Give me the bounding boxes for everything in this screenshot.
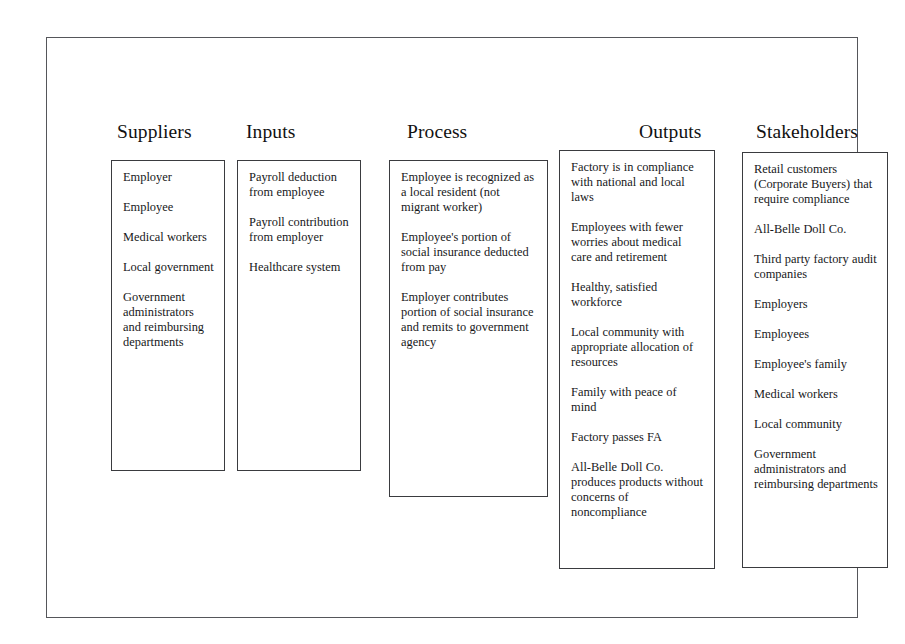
column-list-outputs: Factory is in compliance with national a… [560,151,714,526]
list-item: Employee is recognized as a local reside… [401,170,538,215]
column-box-process: Employee is recognized as a local reside… [389,160,548,497]
column-title-inputs: Inputs [246,122,295,142]
list-item: Employer [123,170,215,185]
list-item: Government administrators and reimbursin… [754,447,878,492]
list-item: Factory is in compliance with national a… [571,160,705,205]
column-list-suppliers: EmployerEmployeeMedical workersLocal gov… [112,161,224,356]
list-item: All-Belle Doll Co. [754,222,878,237]
list-item: Factory passes FA [571,430,705,445]
list-item: Retail customers (Corporate Buyers) that… [754,162,878,207]
list-item: Employers [754,297,878,312]
list-item: Medical workers [123,230,215,245]
list-item: Medical workers [754,387,878,402]
list-item: Government administrators and reimbursin… [123,290,215,350]
column-list-inputs: Payroll deduction from employeePayroll c… [238,161,360,281]
column-box-stakeholders: Retail customers (Corporate Buyers) that… [742,152,888,568]
list-item: Employee's portion of social insurance d… [401,230,538,275]
column-title-process: Process [407,122,467,142]
column-box-inputs: Payroll deduction from employeePayroll c… [237,160,361,471]
list-item: Healthy, satisfied workforce [571,280,705,310]
list-item: Employees [754,327,878,342]
column-title-suppliers: Suppliers [117,122,192,142]
list-item: Payroll deduction from employee [249,170,351,200]
list-item: Employee [123,200,215,215]
diagram-canvas: SuppliersEmployerEmployeeMedical workers… [0,0,905,644]
list-item: Local community [754,417,878,432]
column-box-suppliers: EmployerEmployeeMedical workersLocal gov… [111,160,225,471]
list-item: Healthcare system [249,260,351,275]
diagram-outer-frame: SuppliersEmployerEmployeeMedical workers… [46,37,858,618]
list-item: Local government [123,260,215,275]
list-item: All-Belle Doll Co. produces products wit… [571,460,705,520]
column-list-process: Employee is recognized as a local reside… [390,161,547,356]
column-title-stakeholders: Stakeholders [756,122,858,142]
list-item: Family with peace of mind [571,385,705,415]
list-item: Employer contributes portion of social i… [401,290,538,350]
list-item: Employees with fewer worries about medic… [571,220,705,265]
column-title-outputs: Outputs [639,122,701,142]
list-item: Local community with appropriate allocat… [571,325,705,370]
column-box-outputs: Factory is in compliance with national a… [559,150,715,569]
column-list-stakeholders: Retail customers (Corporate Buyers) that… [743,153,887,498]
list-item: Payroll contribution from employer [249,215,351,245]
list-item: Third party factory audit companies [754,252,878,282]
list-item: Employee's family [754,357,878,372]
